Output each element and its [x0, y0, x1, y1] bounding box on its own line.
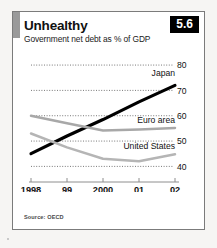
chart-card: Unhealthy Government net debt as % of GD…: [12, 11, 205, 230]
line-chart-svg: 4050607080 19989920000102 JapanEuro area…: [13, 52, 204, 192]
y-axis-labels-group: 4050607080: [177, 60, 187, 171]
x-tick-label: 2000: [93, 185, 113, 193]
accent-bar: [13, 12, 20, 38]
axis-group: [29, 178, 179, 182]
y-tick-label: 50: [177, 136, 187, 146]
series-label-euro-area: Euro area: [137, 115, 175, 125]
y-tick-label: 80: [177, 60, 187, 70]
x-tick-label: 01: [134, 185, 144, 193]
scan-speck: [7, 238, 9, 240]
chart-subtitle: Government net debt as % of GDP: [24, 34, 199, 45]
x-tick-label: 99: [62, 185, 72, 193]
y-tick-label: 60: [177, 111, 187, 121]
y-tick-label: 70: [177, 86, 187, 96]
y-tick-label: 40: [177, 162, 187, 172]
chart-plot-area: 4050607080 19989920000102 JapanEuro area…: [13, 52, 204, 192]
x-axis-labels-group: 19989920000102: [21, 185, 180, 193]
series-label-united-states: United States: [123, 141, 175, 151]
x-tick-label: 1998: [21, 185, 41, 193]
source-note: Source: OECD: [24, 214, 64, 220]
figure-page: Unhealthy Government net debt as % of GD…: [0, 0, 217, 248]
figure-number-badge: 5.6: [170, 16, 199, 33]
x-tick-label: 02: [170, 185, 180, 193]
series-labels-group: JapanEuro areaUnited States: [123, 68, 175, 151]
series-label-japan: Japan: [152, 68, 176, 78]
